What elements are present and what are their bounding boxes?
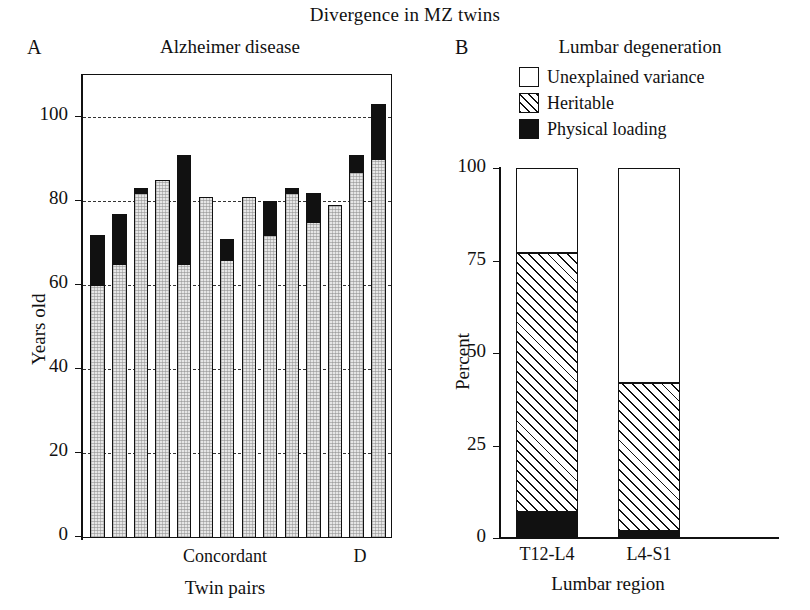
panel-a-title: Alzheimer disease — [105, 36, 355, 58]
segment-unexplained-variance — [516, 168, 578, 253]
panel-a-twin-bar — [263, 201, 277, 537]
panel-b-y-tick-label: 25 — [438, 433, 486, 455]
panel-a-y-tick — [75, 284, 81, 285]
bar-segment-grey — [155, 180, 169, 537]
figure-title: Divergence in MZ twins — [0, 4, 810, 26]
bar-segment-grey — [242, 197, 256, 537]
panel-b-stacked-bar-l4-s1 — [618, 168, 680, 538]
panel-a-twin-bar — [134, 188, 148, 537]
panel-b-xtick-l4-s1: L4-S1 — [589, 544, 709, 565]
panel-b-y-tick — [493, 446, 499, 447]
panel-a-twin-bar — [220, 239, 234, 537]
bar-segment-black — [371, 104, 385, 159]
panel-a-bar-group — [83, 75, 391, 537]
figure-root: Divergence in MZ twins A Alzheimer disea… — [0, 0, 810, 610]
panel-a-twin-bar — [155, 180, 169, 537]
bar-segment-black — [285, 188, 299, 192]
hatched-square-icon — [519, 93, 539, 113]
panel-a-twin-bar — [177, 155, 191, 537]
segment-unexplained-variance — [618, 168, 680, 383]
panel-a-twin-bar — [328, 205, 342, 537]
bar-segment-grey — [349, 172, 363, 537]
segment-heritable — [516, 253, 578, 512]
panel-b-stacked-bar-t12-l4 — [516, 168, 578, 538]
panel-b-y-tick-label: 50 — [438, 340, 486, 362]
panel-a-twin-bar — [199, 197, 213, 537]
panel-b-y-tick — [493, 353, 499, 354]
bar-segment-black — [134, 188, 148, 192]
legend-label: Heritable — [547, 93, 614, 113]
bar-segment-grey — [112, 264, 126, 537]
legend-item-heritable: Heritable — [519, 90, 704, 116]
bar-segment-black — [112, 214, 126, 264]
panel-b-letter: B — [455, 36, 468, 59]
legend-label: Physical loading — [547, 119, 667, 139]
panel-a-twin-bar — [349, 155, 363, 537]
panel-b-y-tick — [493, 168, 499, 169]
panel-b-y-tick-label: 100 — [438, 155, 486, 177]
white-square-icon — [519, 67, 539, 87]
panel-a-y-tick — [75, 452, 81, 453]
panel-a-xtick-discordant: D — [340, 546, 380, 567]
segment-heritable — [618, 383, 680, 531]
bar-segment-black — [349, 155, 363, 172]
legend-item-unexplained-variance: Unexplained variance — [519, 64, 704, 90]
panel-a-plot-area — [82, 74, 392, 538]
panel-b-y-tick — [493, 261, 499, 262]
panel-a-twin-bar — [242, 197, 256, 537]
bar-segment-grey — [285, 193, 299, 537]
bar-segment-black — [220, 239, 234, 260]
bar-segment-grey — [263, 235, 277, 537]
panel-a-y-tick-label: 0 — [20, 523, 68, 545]
legend-item-physical-loading: Physical loading — [519, 116, 704, 142]
panel-a-y-tick — [75, 536, 81, 537]
segment-physical-loading — [516, 512, 578, 538]
bar-segment-grey — [177, 264, 191, 537]
panel-a-x-axis-label: Twin pairs — [155, 577, 295, 599]
legend-label: Unexplained variance — [547, 67, 704, 87]
bar-segment-grey — [134, 193, 148, 537]
panel-a-letter: A — [27, 36, 41, 59]
panel-a-twin-bar — [285, 188, 299, 537]
panel-a-y-tick-label: 100 — [20, 103, 68, 125]
panel-a-twin-bar — [306, 193, 320, 537]
bar-segment-grey — [371, 159, 385, 537]
bar-segment-grey — [220, 260, 234, 537]
bar-segment-black — [177, 155, 191, 264]
black-square-icon — [519, 119, 539, 139]
bar-segment-black — [306, 193, 320, 222]
bar-segment-grey — [328, 205, 342, 537]
panel-a-y-tick-label: 60 — [20, 271, 68, 293]
panel-a-y-tick — [75, 200, 81, 201]
panel-a-twin-bar — [90, 235, 104, 537]
bar-segment-grey — [306, 222, 320, 537]
panel-a-y-tick-label: 20 — [20, 439, 68, 461]
bar-segment-black — [263, 201, 277, 235]
panel-b-y-tick-label: 0 — [438, 525, 486, 547]
segment-physical-loading — [618, 531, 680, 538]
panel-b-title: Lumbar degeneration — [515, 36, 765, 58]
panel-b-legend: Unexplained variance Heritable Physical … — [519, 64, 704, 142]
bar-segment-grey — [90, 285, 104, 537]
panel-a-twin-bar — [112, 214, 126, 537]
panel-a-y-tick — [75, 116, 81, 117]
panel-a-xtick-concordant: Concordant — [155, 546, 295, 567]
panel-b-y-tick — [493, 538, 499, 539]
bar-segment-grey — [199, 197, 213, 537]
panel-a-y-tick — [75, 368, 81, 369]
bar-segment-black — [90, 235, 104, 285]
panel-a-y-tick-label: 80 — [20, 187, 68, 209]
panel-a-y-tick-label: 40 — [20, 355, 68, 377]
panel-b-y-tick-label: 75 — [438, 248, 486, 270]
panel-b-x-axis-label: Lumbar region — [518, 573, 698, 595]
panel-b-plot-area — [500, 168, 715, 538]
panel-a-twin-bar — [371, 104, 385, 537]
